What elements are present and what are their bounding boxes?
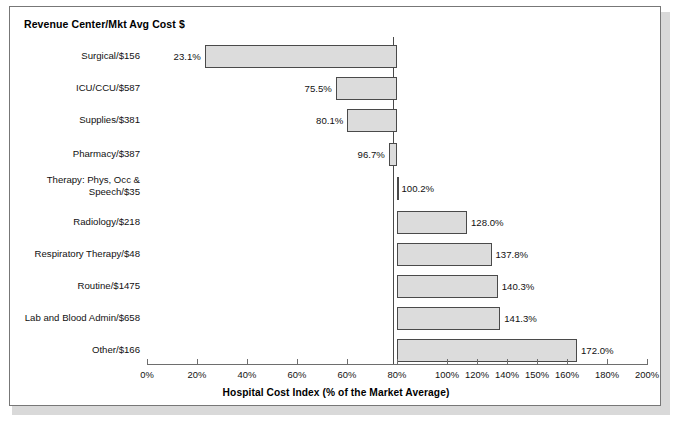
x-axis-tick-label: 150% [525,369,549,380]
bar [205,45,397,68]
category-label: Therapy: Phys, Occ & Speech/$35 [47,174,140,197]
category-label: Respiratory Therapy/$48 [35,248,140,260]
bar-value-label: 80.1% [316,115,343,126]
category-label: Supplies/$381 [79,114,140,126]
x-axis-tick [477,359,478,365]
x-axis-tick [247,359,248,365]
bar [347,109,397,132]
x-axis-tick [607,359,608,365]
x-axis-tick-label: 120% [465,369,489,380]
x-axis-tick-label: 180% [595,369,619,380]
category-label: Lab and Blood Admin/$658 [25,312,140,324]
x-axis-tick-label: 60% [338,369,357,380]
bar [336,77,397,100]
category-label: Routine/$1475 [78,280,140,292]
bar [397,307,500,330]
x-axis-tick [537,359,538,365]
bar-value-label: 172.0% [581,345,614,356]
chart-panel: Revenue Center/Mkt Avg Cost $ 23.1%75.5%… [9,6,661,406]
x-axis-tick-label: 40% [238,369,257,380]
x-axis-tick [447,359,448,365]
x-axis-title: Hospital Cost Index (% of the Market Ave… [10,387,662,398]
x-axis-tick-label: 20% [188,369,207,380]
bar [397,211,467,234]
plot-area: 23.1%75.5%80.1%96.7%100.2%128.0%137.8%14… [10,7,662,407]
x-axis-tick-label: 140% [495,369,519,380]
bar [397,243,492,266]
page-shadow-right [661,12,670,410]
bar-value-label: 23.1% [174,51,201,62]
category-label: Pharmacy/$387 [73,148,140,160]
x-axis-tick [347,359,348,365]
bar-value-label: 96.7% [358,149,385,160]
chart-page: Revenue Center/Mkt Avg Cost $ 23.1%75.5%… [0,0,682,431]
category-label: Other/$166 [92,344,140,356]
x-axis-tick [507,359,508,365]
category-label: ICU/CCU/$587 [76,82,140,94]
bar-value-label: 128.0% [471,217,504,228]
bar [397,275,498,298]
x-axis-tick-label: 80% [388,369,407,380]
x-axis-tick [147,359,148,365]
x-axis-tick [567,359,568,365]
bar-value-label: 75.5% [305,83,332,94]
x-axis-tick-label: 60% [288,369,307,380]
bar-value-label: 140.3% [502,281,535,292]
x-axis-tick [197,359,198,365]
x-axis-tick-label: 100% [435,369,459,380]
bar [389,143,397,166]
bar-value-label: 137.8% [496,249,529,260]
x-axis-tick-label: 160% [555,369,579,380]
bar-value-label: 100.2% [402,183,435,194]
category-label: Radiology/$218 [73,216,140,228]
x-axis-tick [297,359,298,365]
bar [397,177,399,200]
bar [397,339,577,362]
x-axis-tick-label: 0% [140,369,154,380]
bar-value-label: 141.3% [504,313,537,324]
page-shadow-bottom [12,406,670,415]
x-axis-tick [397,359,398,365]
x-axis-tick [647,359,648,365]
x-axis-tick-label: 200% [635,369,659,380]
category-label: Surgical/$156 [81,50,140,62]
